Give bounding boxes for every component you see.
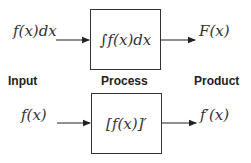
- row2-process-expression: [f(x)]′: [106, 115, 147, 133]
- row1-process-expression: ∫f(x)dx: [100, 31, 152, 49]
- row1-input-expression: f(x)dx: [13, 24, 57, 39]
- process-label: Process: [101, 75, 148, 87]
- row1-product-expression: F(x): [199, 24, 230, 39]
- input-label: Input: [8, 75, 37, 87]
- row1-process-box: ∫f(x)dx: [90, 9, 161, 70]
- product-label: Product: [194, 75, 239, 87]
- row2-process-box: [f(x)]′: [91, 93, 162, 154]
- row2-input-expression: f(x): [21, 108, 47, 123]
- row2-product-expression: f′(x): [200, 108, 229, 123]
